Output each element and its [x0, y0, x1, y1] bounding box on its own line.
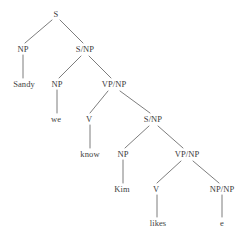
tree-leaf-label: know [80, 150, 99, 159]
tree-node-label: V [153, 185, 159, 194]
tree-leaf-label: Kim [114, 185, 129, 194]
tree-edge [59, 56, 81, 78]
tree-node-label: NP [117, 150, 128, 159]
tree-node-label: VP/NP [102, 80, 127, 89]
tree-edge [120, 91, 150, 113]
tree-edge [90, 91, 108, 113]
tree-node-label: NP [51, 80, 62, 89]
tree-leaf-label: we [51, 115, 61, 124]
tree-node-label: NP/NP [210, 185, 235, 194]
tree-node-label: NP [17, 45, 28, 54]
tree-edge [158, 126, 183, 148]
tree-node-label: S/NP [144, 115, 162, 124]
tree-edge [157, 161, 181, 183]
tree-edge [193, 161, 219, 183]
syntax-tree-figure: SNPS/NPSandyNPVP/NPweVS/NPknowNPVP/NPKim… [0, 0, 248, 236]
tree-node-label: VP/NP [175, 150, 200, 159]
tree-edge [60, 20, 83, 43]
tree-edge [125, 126, 149, 148]
tree-edge [89, 56, 111, 78]
tree-edges-layer [0, 0, 248, 236]
tree-node-label: S [54, 10, 59, 19]
tree-node-label: V [86, 115, 92, 124]
tree-edge [25, 20, 52, 43]
tree-leaf-label: Sandy [13, 80, 35, 89]
tree-leaf-label: likes [150, 219, 167, 228]
tree-node-label: S/NP [76, 45, 94, 54]
tree-leaf-label: e [220, 219, 224, 228]
